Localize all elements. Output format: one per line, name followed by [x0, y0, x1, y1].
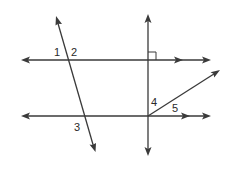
parallel-line-bottom: [21, 113, 211, 120]
vertical-line: [145, 14, 152, 156]
ray: [148, 70, 220, 116]
angle-label-4: 4: [151, 96, 157, 108]
parallel-line-top: [21, 57, 211, 64]
angle-label-2: 2: [71, 46, 77, 58]
arrowhead-ray-icon: [211, 70, 221, 78]
angle-label-1: 1: [54, 46, 60, 58]
geometry-diagram: 1 2 3 4 5: [0, 0, 230, 169]
angle-label-5: 5: [172, 102, 178, 114]
angle-label-3: 3: [74, 121, 80, 133]
right-angle-marker: [148, 52, 156, 60]
